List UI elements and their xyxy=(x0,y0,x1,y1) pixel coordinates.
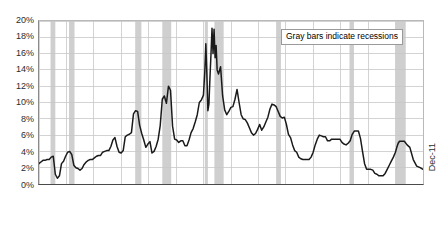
recession-annotation: Gray bars indicate recessions xyxy=(281,29,403,45)
y-axis-tick-label: 12% xyxy=(2,82,34,91)
data-line-federal-funds-rate xyxy=(39,28,423,178)
y-axis-tick-label: 8% xyxy=(2,115,34,124)
y-axis-tick-label: 14% xyxy=(2,65,34,74)
y-axis-tick-label: 6% xyxy=(2,131,34,140)
y-axis-tick-label: 20% xyxy=(2,16,34,25)
y-axis-tick-label: 4% xyxy=(2,148,34,157)
y-axis-tick-label: 0% xyxy=(2,181,34,190)
x-axis-tick-label: Dec-11 xyxy=(428,143,437,189)
y-axis-tick-label: 16% xyxy=(2,49,34,58)
y-axis-tick-label: 10% xyxy=(2,98,34,107)
y-axis-tick-label: 18% xyxy=(2,32,34,41)
data-line-layer xyxy=(39,21,423,184)
y-axis-tick-label: 2% xyxy=(2,164,34,173)
